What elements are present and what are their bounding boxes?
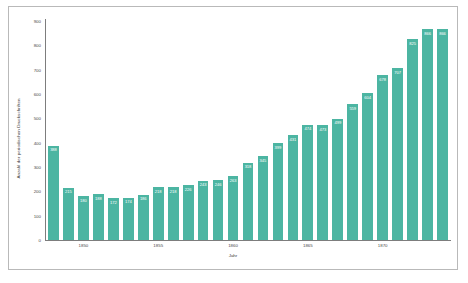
bar-value-label: 174	[125, 199, 132, 204]
bar: 707	[392, 68, 403, 240]
y-axis-tick-labels: 0100200300400500600700800900	[23, 21, 43, 239]
x-axis-tick-labels: 18501855186018651870	[46, 243, 450, 253]
bar: 866	[437, 29, 448, 240]
bar-value-label: 172	[110, 200, 117, 205]
x-axis-tick-label: 1850	[79, 243, 89, 248]
bar-value-label: 473	[319, 127, 326, 132]
bar: 399	[273, 143, 284, 240]
y-axis-tick-label: 0	[39, 238, 41, 243]
bar-value-label: 246	[215, 182, 222, 187]
x-axis-tick-label: 1865	[303, 243, 313, 248]
bar-value-label: 707	[394, 70, 401, 75]
y-axis-tick-label: 900	[34, 19, 41, 24]
chart-frame: Anzahl der periodischen Druckschriften 0…	[8, 6, 458, 270]
y-axis-tick-label: 400	[34, 140, 41, 145]
bar: 678	[377, 75, 388, 240]
bar: 431	[288, 135, 299, 240]
bar: 226	[183, 185, 194, 240]
y-axis-tick-label: 500	[34, 116, 41, 121]
bar-value-label: 399	[275, 145, 282, 150]
bar-value-label: 215	[65, 189, 72, 194]
y-axis-tick-label: 200	[34, 189, 41, 194]
bar-value-label: 218	[155, 189, 162, 194]
bar-value-label: 226	[185, 187, 192, 192]
x-axis-tick-label: 1870	[378, 243, 388, 248]
bar: 825	[407, 39, 418, 240]
bar: 218	[168, 187, 179, 240]
bar-value-label: 431	[290, 137, 297, 142]
bar: 474	[302, 125, 313, 240]
bar: 180	[78, 196, 89, 240]
bar-value-label: 499	[334, 120, 341, 125]
x-axis-tick-label: 1855	[153, 243, 163, 248]
bar: 215	[63, 188, 74, 240]
bar-value-label: 345	[260, 158, 267, 163]
bar: 172	[108, 198, 119, 240]
bar: 559	[347, 104, 358, 240]
bar-value-label: 825	[409, 41, 416, 46]
y-axis-tick-label: 800	[34, 43, 41, 48]
bar-value-label: 559	[349, 106, 356, 111]
bar: 263	[228, 176, 239, 240]
bar: 345	[258, 156, 269, 240]
bar: 473	[317, 125, 328, 240]
bar: 174	[123, 198, 134, 240]
x-axis-tick-label: 1860	[228, 243, 238, 248]
bars-container: 3882151801881721741862182182262432462633…	[46, 21, 450, 240]
x-axis-line	[45, 240, 451, 241]
chart-plot-area: Anzahl der periodischen Druckschriften 0…	[9, 7, 457, 269]
bar: 499	[332, 119, 343, 240]
bar-value-label: 318	[245, 164, 252, 169]
bar: 246	[213, 180, 224, 240]
bar-value-label: 263	[230, 178, 237, 183]
bar: 604	[362, 93, 373, 240]
bar-value-label: 188	[95, 196, 102, 201]
x-axis-title: Jahr	[9, 253, 457, 258]
bar: 388	[48, 146, 59, 240]
bar: 186	[138, 195, 149, 240]
y-axis-tick-label: 600	[34, 92, 41, 97]
bar: 318	[243, 163, 254, 240]
y-axis-tick-label: 300	[34, 165, 41, 170]
bar-value-label: 243	[200, 182, 207, 187]
y-axis-tick-label: 100	[34, 213, 41, 218]
bar: 866	[422, 29, 433, 240]
bar: 218	[153, 187, 164, 240]
bar-value-label: 474	[304, 126, 311, 131]
bar-value-label: 604	[364, 95, 371, 100]
bar-value-label: 180	[80, 198, 87, 203]
y-axis-tick-label: 700	[34, 67, 41, 72]
bar: 243	[198, 181, 209, 240]
bar-value-label: 186	[140, 196, 147, 201]
y-axis-title-text: Anzahl der periodischen Druckschriften	[16, 98, 21, 178]
bar-value-label: 678	[379, 77, 386, 82]
bar: 188	[93, 194, 104, 240]
bar-value-label: 866	[424, 31, 431, 36]
bar-value-label: 388	[50, 147, 57, 152]
bar-value-label: 866	[439, 31, 446, 36]
bar-value-label: 218	[170, 189, 177, 194]
